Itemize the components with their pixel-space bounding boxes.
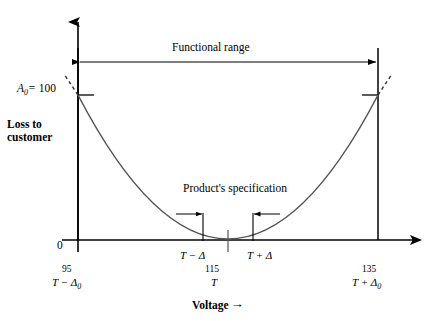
x-axis-title-arrow-icon: → [229, 296, 244, 311]
origin-label: 0 [57, 239, 63, 252]
x-tick-expression-center-text: T [211, 276, 217, 288]
y-axis-title-line2: customer [7, 131, 52, 144]
product-specification-label: Product's specification [183, 182, 287, 195]
y-axis-title: Loss to customer [7, 118, 52, 144]
loss-curve [78, 95, 378, 239]
x-tick-expression-left-sub: 0 [77, 282, 81, 291]
x-tick-expression-right-sub: 0 [377, 282, 381, 291]
x-axis-title-text: Voltage [192, 299, 229, 311]
x-tick-expression-right-text: T + Δ [352, 276, 377, 288]
loss-function-figure: A0=100 Loss to customer Functional range… [0, 0, 443, 321]
x-axis-title: Voltage→ [192, 298, 244, 313]
x-tick-expression-center: T [211, 276, 217, 291]
spec-upper-limit-label: T + Δ [247, 249, 272, 261]
x-tick-expression-right: T + Δ0 [352, 276, 381, 292]
y-axis-tick-label-a0: A0=100 [17, 82, 56, 98]
x-tick-expression-left-text: T − Δ [52, 276, 77, 288]
x-tick-expression-left: T − Δ0 [52, 276, 81, 292]
curve-extension-right-dashed [378, 74, 392, 95]
x-tick-value-right: 135 [362, 264, 376, 275]
functional-range-label: Functional range [172, 41, 250, 54]
x-tick-value-center: 115 [205, 264, 219, 275]
y-axis-title-line1: Loss to [7, 118, 52, 131]
spec-lower-limit-label: T − Δ [180, 249, 205, 261]
a0-value: 100 [36, 82, 56, 94]
a0-symbol: A [17, 82, 24, 94]
x-tick-value-left: 95 [62, 264, 72, 275]
curve-extension-left-dashed [64, 74, 78, 95]
a0-equals: = [28, 82, 36, 94]
